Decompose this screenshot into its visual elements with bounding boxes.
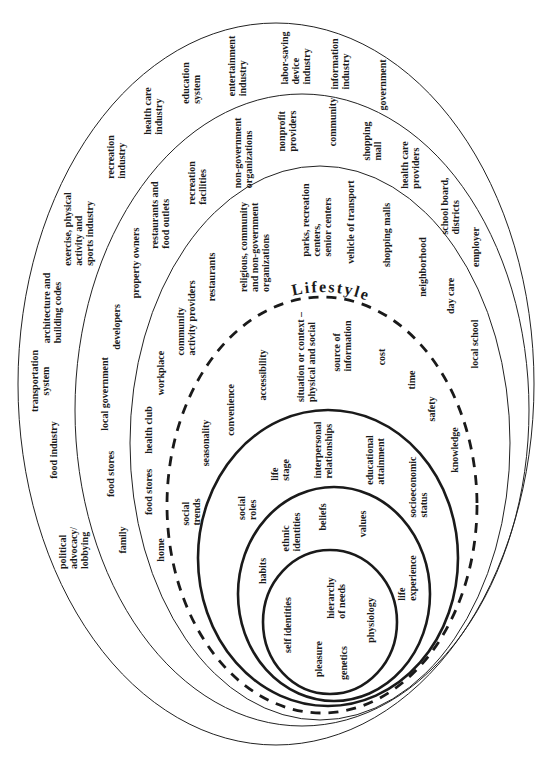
label-pleasure: pleasure (313, 641, 324, 677)
label-physiology: physiology (365, 597, 376, 643)
lifestyle-diagram: Lifestyle political advocacy/ lobbying f… (0, 0, 549, 778)
label-genetics: genetics (338, 646, 349, 680)
label-self-identities: self identities (282, 597, 293, 653)
label-hierarchy-of-needs: hierarchy of needs (325, 577, 347, 618)
core-labels: self identities pleasure genetics hierar… (0, 0, 549, 778)
